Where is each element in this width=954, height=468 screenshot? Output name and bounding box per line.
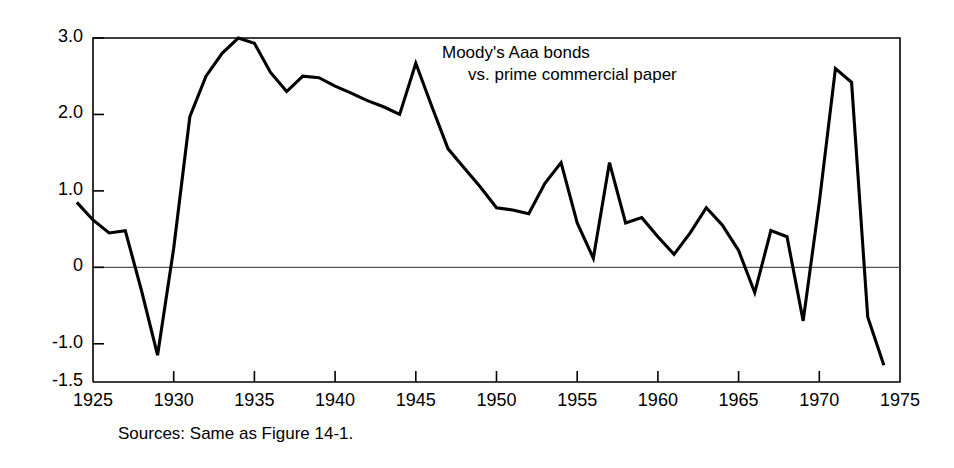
data-series-line — [77, 38, 884, 365]
y-tick-label: -1.5 — [31, 370, 83, 391]
source-note: Sources: Same as Figure 14-1. — [118, 424, 353, 444]
annotation-line-2: vs. prime commercial paper — [442, 64, 677, 86]
y-tick-label: 2.0 — [31, 102, 83, 123]
x-tick-label: 1940 — [300, 390, 370, 411]
y-tick-label: 0 — [31, 255, 83, 276]
x-tick-label: 1955 — [542, 390, 612, 411]
y-tick-label: 1.0 — [31, 179, 83, 200]
y-tick-label: 3.0 — [31, 26, 83, 47]
series-annotation: Moody's Aaa bonds vs. prime commercial p… — [442, 42, 677, 86]
x-tick-label: 1960 — [623, 390, 693, 411]
x-tick-label: 1965 — [704, 390, 774, 411]
plot-frame — [93, 38, 900, 382]
x-tick-label: 1930 — [139, 390, 209, 411]
x-tick-label: 1970 — [784, 390, 854, 411]
chart-figure: Percentage differential Moody's Aaa bond… — [0, 0, 954, 468]
x-tick-label: 1945 — [381, 390, 451, 411]
x-tick-label: 1975 — [865, 390, 935, 411]
x-tick-label: 1925 — [58, 390, 128, 411]
x-tick-label: 1935 — [219, 390, 289, 411]
y-tick-label: -1.0 — [31, 332, 83, 353]
x-tick-label: 1950 — [462, 390, 532, 411]
annotation-line-1: Moody's Aaa bonds — [442, 43, 590, 62]
